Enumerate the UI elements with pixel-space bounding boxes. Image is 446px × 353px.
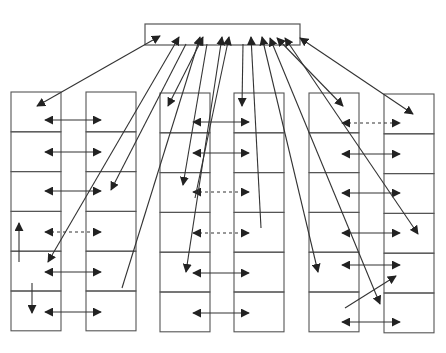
cell-4-5 xyxy=(234,252,284,292)
cell-4-6 xyxy=(234,292,284,332)
cell-3-4 xyxy=(160,212,210,252)
hub-box xyxy=(145,24,300,45)
cell-5-6 xyxy=(309,292,359,332)
cell-3-3 xyxy=(160,173,210,213)
cell-1-1 xyxy=(11,92,61,132)
hub-link-group xyxy=(37,36,418,304)
diagram-canvas xyxy=(0,0,446,353)
extra-link-group xyxy=(19,223,396,313)
col-5 xyxy=(309,93,359,332)
hub-arrow xyxy=(242,44,243,106)
cell-2-6 xyxy=(86,291,136,331)
cell-2-4 xyxy=(86,211,136,251)
cell-1-6 xyxy=(11,291,61,331)
col-1 xyxy=(11,92,61,331)
cell-5-2 xyxy=(309,133,359,173)
cell-5-1 xyxy=(309,93,359,133)
col-2 xyxy=(86,92,136,331)
hub-arrow xyxy=(122,37,200,288)
cell-6-5 xyxy=(384,253,434,293)
column-group xyxy=(11,92,434,333)
cell-3-5 xyxy=(160,252,210,292)
hub-arrow xyxy=(270,38,380,304)
cell-5-5 xyxy=(309,252,359,292)
hub-arrow xyxy=(285,38,418,234)
cell-4-4 xyxy=(234,212,284,252)
hub-arrow xyxy=(37,36,160,106)
hub-arrow xyxy=(183,44,207,185)
hub-arrow xyxy=(48,37,179,262)
hub-arrow xyxy=(300,38,413,114)
col-3 xyxy=(160,93,210,332)
col-4 xyxy=(234,93,284,332)
cell-2-1 xyxy=(86,92,136,132)
cell-2-5 xyxy=(86,251,136,291)
hub-arrow xyxy=(195,37,229,198)
cell-5-4 xyxy=(309,212,359,252)
cell-3-1 xyxy=(160,93,210,133)
cell-3-6 xyxy=(160,292,210,332)
col-6 xyxy=(384,94,434,333)
cell-6-6 xyxy=(384,293,434,333)
hub-arrow xyxy=(277,38,343,106)
hub-and-columns-diagram xyxy=(0,0,446,353)
